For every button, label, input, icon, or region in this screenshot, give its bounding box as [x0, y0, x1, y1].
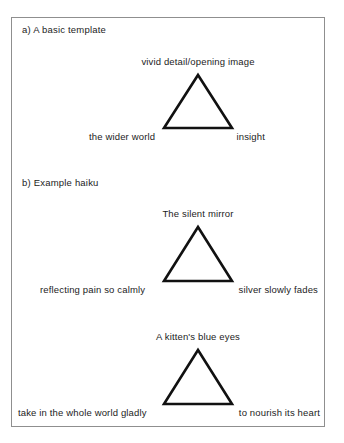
triangle-shape [160, 71, 236, 132]
triangle-base-right-label: insight [236, 131, 265, 142]
figure-canvas: a) A basic templatevivid detail/opening … [0, 0, 344, 443]
section-label-2: b) Example haiku [22, 177, 99, 188]
triangle-apex-label: The silent mirror [162, 208, 233, 219]
triangle-base-left-label: reflecting pain so calmly [40, 284, 145, 295]
section-label-1: a) A basic template [22, 24, 106, 35]
triangle-base-left-label: take in the whole world gladly [18, 407, 147, 418]
triangle-base-right-label: to nourish its heart [239, 407, 320, 418]
triangle-base-left-label: the wider world [89, 131, 155, 142]
triangle-shape [160, 223, 236, 285]
triangle-apex-label: A kitten's blue eyes [156, 331, 240, 342]
triangle-apex-label: vivid detail/opening image [141, 56, 254, 67]
triangle-shape [160, 346, 236, 408]
triangle-base-right-label: silver slowly fades [239, 284, 318, 295]
